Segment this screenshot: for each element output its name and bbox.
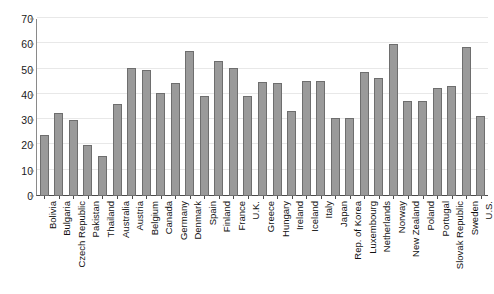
- bar-chart: 010203040506070 BoliviaBulgariaCzech Rep…: [0, 0, 494, 294]
- x-tick-label: Italy: [324, 201, 334, 218]
- bar: [273, 83, 282, 196]
- x-tick-label: U.S.: [484, 201, 494, 219]
- x-tick-label: Ireland: [295, 201, 305, 230]
- x-tick-label: Thailand: [106, 201, 116, 237]
- y-axis: 010203040506070: [0, 19, 33, 196]
- x-tick-mark: [306, 196, 307, 199]
- bar: [200, 96, 209, 196]
- x-tick-label: Austria: [135, 201, 145, 231]
- x-tick-mark: [117, 196, 118, 199]
- x-tick-mark: [379, 196, 380, 199]
- x-tick-mark: [321, 196, 322, 199]
- y-tick-mark: [30, 120, 34, 121]
- x-tick-mark: [73, 196, 74, 199]
- x-tick-label: Slovak Republic: [455, 201, 465, 269]
- x-tick-label: Greece: [266, 201, 276, 232]
- x-tick-mark: [175, 196, 176, 199]
- y-tick-label: 30: [0, 115, 33, 126]
- x-tick-mark: [146, 196, 147, 199]
- x-tick-mark: [233, 196, 234, 199]
- y-tick-label: 0: [0, 191, 33, 202]
- x-tick-label: Bulgaria: [62, 201, 72, 236]
- bar: [83, 145, 92, 196]
- x-tick-mark: [481, 196, 482, 199]
- bar: [127, 68, 136, 196]
- x-tick-mark: [277, 196, 278, 199]
- x-tick-label: Bolivia: [48, 201, 58, 229]
- x-tick-label: Portugal: [441, 201, 451, 236]
- x-tick-mark: [408, 196, 409, 199]
- bars-layer: [37, 19, 488, 196]
- x-tick-label: Hungary: [281, 201, 291, 237]
- x-tick-mark: [335, 196, 336, 199]
- x-tick-label: Czech Republic: [77, 201, 87, 268]
- x-tick-mark: [263, 196, 264, 199]
- bar: [98, 156, 107, 196]
- x-tick-label: Japan: [339, 201, 349, 227]
- x-tick-label: Rep. of Korea: [353, 201, 363, 260]
- x-tick-label: France: [237, 201, 247, 231]
- x-tick-label: Belgium: [150, 201, 160, 235]
- bar: [54, 113, 63, 196]
- x-tick-mark: [132, 196, 133, 199]
- x-tick-label: Poland: [426, 201, 436, 231]
- y-tick-mark: [30, 170, 34, 171]
- x-tick-mark: [423, 196, 424, 199]
- x-tick-mark: [292, 196, 293, 199]
- x-tick-mark: [88, 196, 89, 199]
- x-tick-mark: [102, 196, 103, 199]
- bar: [447, 86, 456, 196]
- y-tick-label: 40: [0, 90, 33, 101]
- bar: [69, 120, 78, 196]
- x-tick-label: Canada: [164, 201, 174, 234]
- x-tick-mark: [44, 196, 45, 199]
- bar: [287, 111, 296, 196]
- x-tick-label: Finland: [222, 201, 232, 232]
- x-tick-label: New Zealand: [411, 201, 421, 257]
- bar: [433, 88, 442, 196]
- bar: [243, 96, 252, 196]
- x-tick-label: Spain: [208, 201, 218, 225]
- x-tick-mark: [204, 196, 205, 199]
- x-tick-label: Denmark: [193, 201, 203, 240]
- x-tick-mark: [452, 196, 453, 199]
- x-tick-label: Iceland: [310, 201, 320, 232]
- bar: [302, 81, 311, 196]
- y-tick-mark: [30, 94, 34, 95]
- x-tick-mark: [437, 196, 438, 199]
- bar: [462, 47, 471, 196]
- x-tick-mark: [393, 196, 394, 199]
- bar: [214, 61, 223, 196]
- x-tick-mark: [161, 196, 162, 199]
- x-tick-label: Norway: [397, 201, 407, 233]
- x-tick-label: Luxembourg: [368, 201, 378, 254]
- x-tick-label: Australia: [121, 201, 131, 238]
- bar: [316, 81, 325, 196]
- gridline: [37, 17, 488, 18]
- y-tick-mark: [30, 145, 34, 146]
- y-tick-label: 60: [0, 39, 33, 50]
- bar: [403, 101, 412, 196]
- x-tick-mark: [190, 196, 191, 199]
- x-tick-mark: [219, 196, 220, 199]
- x-tick-label: U.K.: [251, 201, 261, 219]
- x-tick-label: Germany: [179, 201, 189, 240]
- y-tick-label: 20: [0, 140, 33, 151]
- bar: [418, 101, 427, 196]
- y-tick-label: 10: [0, 165, 33, 176]
- bar: [389, 44, 398, 196]
- bar: [40, 135, 49, 196]
- y-tick-mark: [30, 69, 34, 70]
- bar: [229, 68, 238, 196]
- bar: [113, 104, 122, 196]
- y-tick-mark: [30, 19, 34, 20]
- x-tick-label: Sweden: [470, 201, 480, 235]
- x-axis: BoliviaBulgariaCzech RepublicPakistanTha…: [37, 199, 488, 294]
- x-tick-label: Netherlands: [382, 201, 392, 252]
- bar: [156, 93, 165, 196]
- x-tick-mark: [350, 196, 351, 199]
- bar: [185, 51, 194, 196]
- bar: [331, 118, 340, 196]
- y-tick-label: 70: [0, 14, 33, 25]
- bar: [142, 70, 151, 196]
